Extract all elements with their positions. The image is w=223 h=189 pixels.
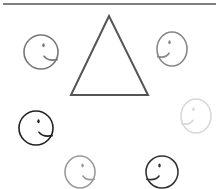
face-head <box>146 156 178 188</box>
face-head <box>157 32 187 66</box>
face-mouth <box>147 176 159 180</box>
faces-group <box>19 32 211 188</box>
face-icon-middle-right <box>181 99 211 133</box>
face-mouth <box>182 120 193 124</box>
face-head <box>24 35 58 69</box>
triangle-shape <box>71 16 148 95</box>
face-icon-top-left <box>24 35 58 69</box>
face-mouth <box>158 53 169 57</box>
face-head <box>65 156 95 188</box>
face-mouth <box>44 56 57 60</box>
face-icon-bottom-right <box>146 156 178 188</box>
face-mouth <box>83 176 94 180</box>
face-eye <box>158 164 160 168</box>
face-mouth <box>39 132 52 136</box>
face-eye <box>81 164 83 168</box>
face-icon-top-right <box>157 32 187 66</box>
face-eye <box>192 107 194 111</box>
face-head <box>181 99 211 133</box>
face-head <box>19 111 53 145</box>
face-icon-middle-left <box>19 111 53 145</box>
face-icon-bottom-left <box>65 156 95 188</box>
face-eye <box>168 40 170 44</box>
face-eye <box>42 43 44 47</box>
puzzle-figure <box>0 0 223 189</box>
face-eye <box>37 119 39 123</box>
